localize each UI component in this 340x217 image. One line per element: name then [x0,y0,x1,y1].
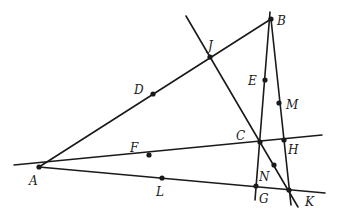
point-K [286,187,291,192]
point-B [268,16,273,21]
point-N [271,162,276,167]
label-E: E [247,74,257,88]
label-N: N [258,170,270,184]
line-AH [14,135,322,165]
point-G [253,183,258,188]
label-F: F [129,141,139,155]
label-L: L [155,185,164,199]
point-L [159,175,164,180]
label-C: C [236,129,245,143]
point-F [146,152,151,157]
point-E [262,77,267,82]
point-D [150,91,155,96]
label-H: H [287,143,299,157]
label-D: D [133,83,144,97]
point-J [207,54,212,59]
label-K: K [304,195,315,209]
label-G: G [259,192,269,206]
point-C [257,139,262,144]
point-A [36,164,41,169]
label-B: B [276,14,286,28]
point-H [281,137,286,142]
label-A: A [28,174,38,188]
geometry-diagram: A B C D E F G H J K L M N [0,0,340,217]
label-M: M [285,98,299,112]
point-M [276,100,281,105]
